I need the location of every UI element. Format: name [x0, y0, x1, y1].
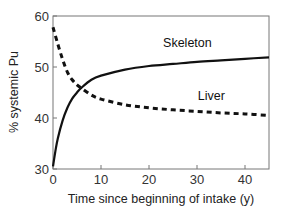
- x-axis: 010203040: [49, 165, 252, 187]
- skeleton-label: Skeleton: [163, 36, 212, 50]
- x-tick-label: 40: [238, 172, 252, 187]
- liver-label: Liver: [198, 89, 225, 103]
- y-axis: 30405060: [35, 9, 57, 177]
- liver-line: [53, 27, 269, 115]
- x-tick-label: 10: [94, 172, 108, 187]
- y-tick-label: 30: [35, 162, 49, 177]
- line-chart: 30405060 010203040 SkeletonLiver Time si…: [0, 0, 281, 214]
- x-axis-label: Time since beginning of intake (y): [68, 192, 254, 206]
- series-lines: [53, 27, 269, 166]
- x-tick-label: 30: [190, 172, 204, 187]
- y-tick-label: 40: [35, 111, 49, 126]
- y-axis-label: % systemic Pu: [7, 51, 21, 133]
- y-tick-label: 60: [35, 9, 49, 24]
- y-tick-label: 50: [35, 60, 49, 75]
- x-tick-label: 20: [142, 172, 156, 187]
- skeleton-line: [53, 57, 269, 166]
- series-labels: SkeletonLiver: [163, 36, 225, 104]
- x-tick-label: 0: [49, 172, 56, 187]
